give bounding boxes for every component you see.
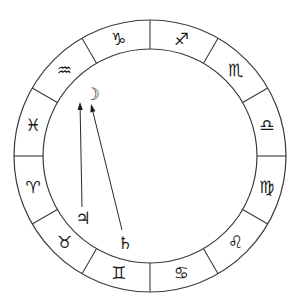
saturn-planet-icon: ♄︎ <box>117 233 132 253</box>
cancer-sign-icon: ♋︎ <box>174 263 189 283</box>
pisces-sign-icon: ♓︎ <box>25 115 40 135</box>
sign-divider <box>82 38 97 63</box>
zodiac-sign-glyphs: ♐︎♏︎♎︎♍︎♌︎♋︎♊︎♉︎♈︎♓︎♒︎♑︎ <box>25 29 274 283</box>
sagittarius-sign-icon: ♐︎ <box>174 29 189 49</box>
scorpio-sign-icon: ♏︎ <box>228 60 243 80</box>
sign-divider <box>32 210 57 225</box>
sign-divider <box>204 249 219 274</box>
sign-divider <box>32 88 57 103</box>
sign-divider <box>243 210 268 225</box>
arrowhead-icon <box>90 104 95 112</box>
sign-divider <box>204 38 219 63</box>
aquarius-sign-icon: ♒︎ <box>57 60 72 80</box>
inner-ring <box>43 49 257 263</box>
virgo-sign-icon: ♍︎ <box>259 177 274 197</box>
saturn-to-moon-arrow <box>90 104 122 230</box>
libra-sign-icon: ♎︎ <box>259 115 274 135</box>
jupiter-planet-icon: ♃︎ <box>75 208 90 228</box>
moon-planet-icon: ☽︎ <box>84 84 99 104</box>
capricorn-sign-icon: ♑︎ <box>111 29 126 49</box>
sign-dividers <box>14 20 286 292</box>
zodiac-wheel-diagram: ♐︎♏︎♎︎♍︎♌︎♋︎♊︎♉︎♈︎♓︎♒︎♑︎ ☽︎♃︎♄︎ <box>0 0 299 306</box>
sign-divider <box>243 88 268 103</box>
leo-sign-icon: ♌︎ <box>228 232 243 252</box>
jupiter-to-moon-arrow <box>78 102 83 207</box>
outer-ring <box>14 20 286 292</box>
arrowhead-icon <box>78 102 83 110</box>
gemini-sign-icon: ♊︎ <box>111 263 126 283</box>
taurus-sign-icon: ♉︎ <box>57 232 72 252</box>
aries-sign-icon: ♈︎ <box>25 177 40 197</box>
sign-divider <box>82 249 97 274</box>
zodiac-rings <box>14 20 286 292</box>
planet-glyphs: ☽︎♃︎♄︎ <box>75 84 132 253</box>
